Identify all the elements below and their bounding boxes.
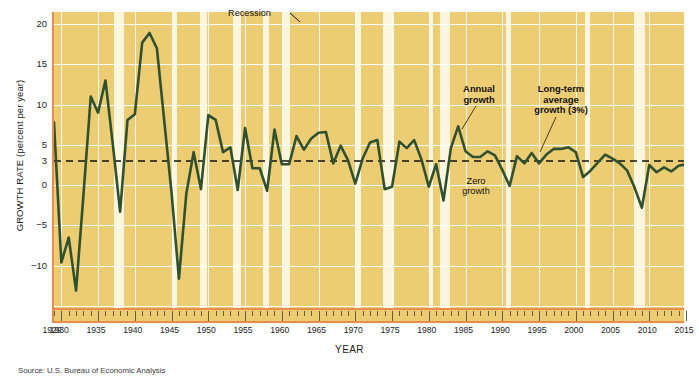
x-axis-tick-label: 1980 bbox=[417, 325, 436, 335]
y-axis-tick-label: 15 bbox=[13, 59, 47, 68]
x-axis-minor-tick bbox=[495, 311, 496, 316]
x-axis-tick-label: 2015 bbox=[674, 325, 693, 335]
x-axis-minor-tick bbox=[304, 311, 305, 316]
x-axis-minor-tick bbox=[473, 311, 474, 316]
x-axis-minor-tick bbox=[91, 311, 92, 316]
annotation-zero-growth: Zero growth bbox=[452, 176, 500, 197]
x-axis-minor-tick bbox=[385, 311, 386, 316]
x-axis-minor-tick bbox=[671, 311, 672, 316]
x-axis-minor-tick bbox=[399, 311, 400, 316]
annotation-annual-growth-line2: growth bbox=[448, 95, 510, 106]
x-axis-minor-tick bbox=[201, 311, 202, 316]
x-axis-minor-tick bbox=[524, 311, 525, 316]
x-axis-minor-tick bbox=[150, 311, 151, 316]
y-axis-tick-label: 0 bbox=[13, 180, 47, 189]
x-axis-major-tick bbox=[576, 311, 577, 321]
x-axis-major-tick bbox=[355, 311, 356, 321]
x-axis-minor-tick bbox=[568, 311, 569, 316]
x-axis-minor-tick bbox=[216, 311, 217, 316]
x-axis-minor-tick bbox=[679, 311, 680, 316]
x-axis-major-tick bbox=[135, 311, 136, 321]
x-axis-tick-label: 1990 bbox=[491, 325, 510, 335]
x-axis-minor-tick bbox=[76, 311, 77, 316]
plot-area bbox=[52, 12, 684, 310]
x-axis-minor-tick bbox=[664, 311, 665, 316]
x-axis-tick-label: 2010 bbox=[638, 325, 657, 335]
x-axis-major-tick bbox=[502, 311, 503, 321]
x-axis-minor-tick bbox=[451, 311, 452, 316]
x-axis-tick-label: 2000 bbox=[564, 325, 583, 335]
x-axis-minor-tick bbox=[407, 311, 408, 316]
y-axis-tick-label: 5 bbox=[13, 140, 47, 149]
x-axis-minor-tick bbox=[69, 311, 70, 316]
x-axis-minor-tick bbox=[54, 311, 55, 316]
x-axis-minor-tick bbox=[605, 311, 606, 316]
x-axis-minor-tick bbox=[458, 311, 459, 316]
x-axis-major-tick bbox=[98, 311, 99, 321]
x-axis-minor-tick bbox=[274, 311, 275, 316]
x-axis-minor-tick bbox=[546, 311, 547, 316]
x-axis-minor-tick bbox=[142, 311, 143, 316]
x-axis-tick-label: 1960 bbox=[270, 325, 289, 335]
x-axis-minor-tick bbox=[230, 311, 231, 316]
x-axis-title: YEAR bbox=[0, 344, 699, 355]
x-axis-minor-tick bbox=[297, 311, 298, 316]
source-note: Source: U.S. Bureau of Economic Analysis bbox=[18, 366, 165, 375]
x-axis-tick-label: 1930 bbox=[50, 325, 69, 335]
x-axis-minor-tick bbox=[554, 311, 555, 316]
x-axis-minor-tick bbox=[289, 311, 290, 316]
x-axis-minor-tick bbox=[583, 311, 584, 316]
x-axis-tick-label: 1955 bbox=[234, 325, 253, 335]
x-axis-minor-tick bbox=[377, 311, 378, 316]
x-axis-minor-tick bbox=[223, 311, 224, 316]
x-axis-minor-tick bbox=[443, 311, 444, 316]
x-axis-minor-tick bbox=[436, 311, 437, 316]
x-axis-minor-tick bbox=[488, 311, 489, 316]
x-axis-minor-tick bbox=[311, 311, 312, 316]
x-axis-major-tick bbox=[429, 311, 430, 321]
x-axis-minor-tick bbox=[657, 311, 658, 316]
annotation-long-term-line3: growth (3%) bbox=[518, 105, 604, 116]
x-axis-minor-tick bbox=[326, 311, 327, 316]
x-axis-major-tick bbox=[649, 311, 650, 321]
x-axis-tick-label: 1940 bbox=[123, 325, 142, 335]
chart-figure: GROWTH RATE (percent per year) 201510530… bbox=[0, 0, 699, 384]
annotation-long-term-average: Long-term average growth (3%) bbox=[518, 84, 604, 116]
x-axis-minor-tick bbox=[120, 311, 121, 316]
x-axis-minor-tick bbox=[590, 311, 591, 316]
x-axis-tick-label: 1935 bbox=[87, 325, 106, 335]
x-axis-minor-tick bbox=[517, 311, 518, 316]
x-axis-minor-tick bbox=[480, 311, 481, 316]
x-axis-minor-tick bbox=[186, 311, 187, 316]
x-axis-tick-label: 1965 bbox=[307, 325, 326, 335]
x-axis-minor-tick bbox=[164, 311, 165, 316]
x-axis-major-tick bbox=[208, 311, 209, 321]
x-axis-minor-tick bbox=[561, 311, 562, 316]
x-axis-minor-tick bbox=[267, 311, 268, 316]
x-axis-minor-tick bbox=[341, 311, 342, 316]
x-axis-minor-tick bbox=[414, 311, 415, 316]
x-axis-major-tick bbox=[613, 311, 614, 321]
x-axis-minor-tick bbox=[83, 311, 84, 316]
x-axis-major-tick bbox=[172, 311, 173, 321]
x-axis-minor-tick bbox=[627, 311, 628, 316]
x-axis-minor-tick bbox=[421, 311, 422, 316]
annotation-long-term-line1: Long-term bbox=[518, 84, 604, 95]
y-axis-tick-label: 3 bbox=[13, 156, 47, 165]
x-axis-major-tick bbox=[539, 311, 540, 321]
x-axis-tick-label: 1970 bbox=[344, 325, 363, 335]
x-axis-tick-label: 1950 bbox=[197, 325, 216, 335]
y-axis-tick-label: 20 bbox=[13, 19, 47, 28]
x-axis-major-tick bbox=[392, 311, 393, 321]
annotation-recession: Recession bbox=[228, 8, 271, 18]
annotation-zero-growth-line1: Zero bbox=[452, 176, 500, 186]
x-axis-major-tick bbox=[282, 311, 283, 321]
x-axis-minor-tick bbox=[642, 311, 643, 316]
x-axis-minor-tick bbox=[333, 311, 334, 316]
x-axis-minor-tick bbox=[348, 311, 349, 316]
annotation-recession-label: Recession bbox=[228, 8, 271, 18]
x-axis-minor-tick bbox=[252, 311, 253, 316]
x-axis-tick-label: 2005 bbox=[601, 325, 620, 335]
x-axis-minor-tick bbox=[194, 311, 195, 316]
x-axis-major-tick bbox=[686, 311, 687, 321]
